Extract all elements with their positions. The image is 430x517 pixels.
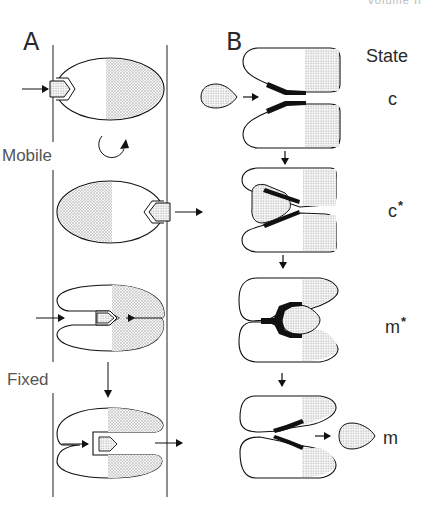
state-symbol: m (383, 428, 398, 448)
panel-b-label: B (226, 28, 242, 56)
state-star: * (398, 198, 403, 213)
channel-state-cstar (242, 168, 336, 252)
rotate-clockwise-arrow-icon (99, 136, 129, 158)
state-label-c: c (388, 86, 398, 110)
down-arrow-icon (104, 362, 112, 398)
state-symbol: c (388, 89, 397, 109)
diagram-canvas (0, 0, 430, 517)
channel-state-m (240, 396, 375, 478)
state-star: * (401, 314, 406, 329)
carrier-row-2 (57, 181, 202, 243)
state-symbol: m (385, 317, 400, 337)
state-column-title: State (366, 46, 408, 67)
state-label-m: m (383, 425, 399, 449)
channel-state-c (201, 48, 340, 148)
state-symbol: c (388, 201, 397, 221)
transition-mobile-label: Mobile (2, 146, 52, 166)
state-label-mstar: m* (385, 314, 406, 338)
carrier-row-3 (36, 285, 164, 351)
carrier-row-1 (22, 58, 164, 120)
state-label-cstar: c* (388, 198, 403, 222)
channel-state-mstar (239, 278, 338, 362)
carrier-row-4 (57, 408, 182, 478)
panel-a-label: A (23, 28, 39, 56)
transition-fixed-label: Fixed (7, 370, 49, 390)
